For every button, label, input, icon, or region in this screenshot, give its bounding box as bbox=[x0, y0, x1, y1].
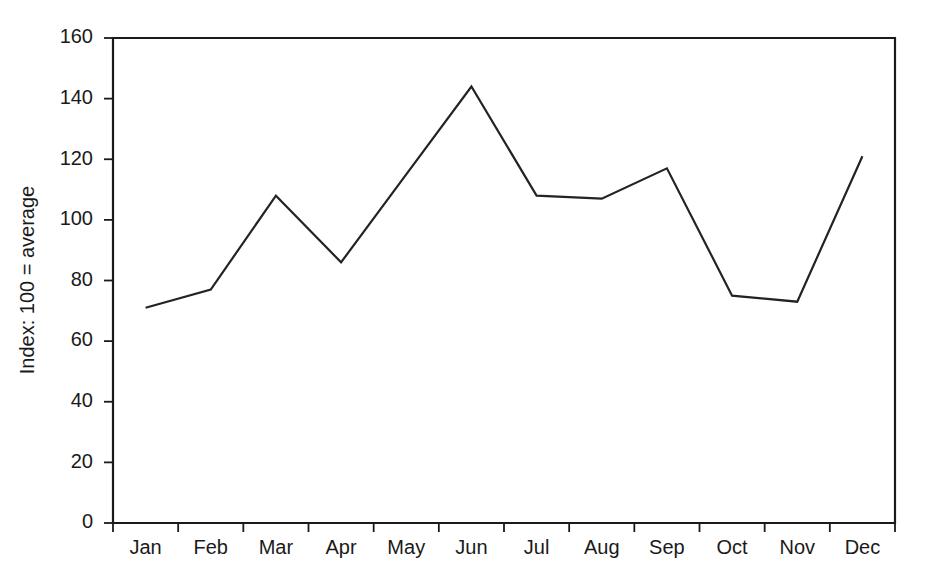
y-tick-label: 160 bbox=[60, 25, 93, 47]
x-tick-label-feb: Feb bbox=[194, 536, 228, 558]
y-tick-label: 100 bbox=[60, 207, 93, 229]
x-tick-label-sep: Sep bbox=[649, 536, 685, 558]
y-tick-label: 60 bbox=[71, 328, 93, 350]
x-tick-label-jul: Jul bbox=[524, 536, 550, 558]
x-tick-label-apr: Apr bbox=[326, 536, 357, 558]
y-tick-label: 40 bbox=[71, 389, 93, 411]
x-tick-label-may: May bbox=[387, 536, 425, 558]
x-tick-label-mar: Mar bbox=[259, 536, 294, 558]
x-tick-label-oct: Oct bbox=[717, 536, 749, 558]
y-tick-label: 140 bbox=[60, 86, 93, 108]
x-tick-label-nov: Nov bbox=[779, 536, 815, 558]
x-tick-label-jun: Jun bbox=[455, 536, 487, 558]
chart-canvas: 020406080100120140160 Index: 100 = avera… bbox=[0, 0, 929, 579]
y-tick-label: 80 bbox=[71, 268, 93, 290]
line-chart: 020406080100120140160 Index: 100 = avera… bbox=[0, 0, 929, 579]
chart-background bbox=[0, 0, 929, 579]
x-tick-label-jan: Jan bbox=[129, 536, 161, 558]
x-tick-label-aug: Aug bbox=[584, 536, 620, 558]
y-tick-label: 20 bbox=[71, 450, 93, 472]
y-axis-label: Index: 100 = average bbox=[16, 186, 38, 374]
y-tick-label: 120 bbox=[60, 147, 93, 169]
y-tick-label: 0 bbox=[82, 510, 93, 532]
x-tick-label-dec: Dec bbox=[845, 536, 881, 558]
